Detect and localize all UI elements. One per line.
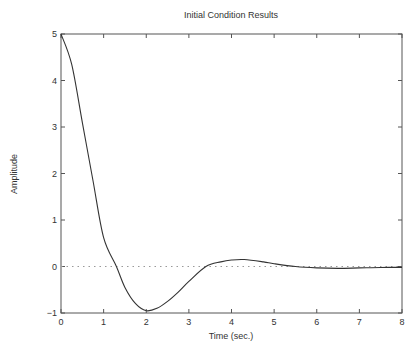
y-tick-label: 0 bbox=[52, 262, 57, 272]
x-tick-label: 6 bbox=[314, 317, 319, 327]
x-tick-label: 0 bbox=[58, 317, 63, 327]
x-tick-label: 8 bbox=[399, 317, 404, 327]
y-tick-label: 3 bbox=[52, 122, 57, 132]
axes-box bbox=[61, 34, 402, 313]
x-axis-label: Time (sec.) bbox=[209, 331, 254, 341]
chart-figure: Initial Condition Results Amplitude Time… bbox=[0, 0, 418, 353]
y-axis-label: Amplitude bbox=[9, 154, 19, 194]
y-tick-label: 2 bbox=[52, 169, 57, 179]
x-tick-label: 5 bbox=[272, 317, 277, 327]
response-curve bbox=[61, 34, 402, 311]
plot-area: 012345678−1012345 bbox=[47, 29, 405, 327]
y-tick-label: 1 bbox=[52, 215, 57, 225]
y-tick-label: 4 bbox=[52, 76, 57, 86]
x-tick-label: 4 bbox=[229, 317, 234, 327]
x-tick-label: 2 bbox=[144, 317, 149, 327]
x-tick-label: 3 bbox=[186, 317, 191, 327]
chart-title: Initial Condition Results bbox=[184, 10, 279, 20]
x-tick-label: 7 bbox=[357, 317, 362, 327]
y-tick-label: −1 bbox=[47, 308, 57, 318]
x-tick-label: 1 bbox=[101, 317, 106, 327]
y-tick-label: 5 bbox=[52, 29, 57, 39]
